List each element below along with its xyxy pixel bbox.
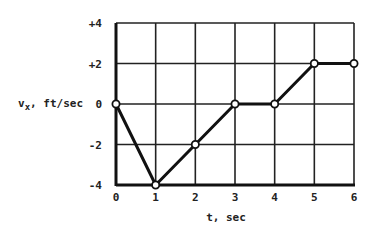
- y-tick-labels: +4+20-2-4: [89, 17, 103, 192]
- x-tick-label: 1: [152, 191, 159, 204]
- x-tick-label: 6: [351, 191, 358, 204]
- data-point-marker: [152, 181, 159, 188]
- x-tick-labels: 0123456: [113, 191, 358, 204]
- x-tick-label: 3: [232, 191, 239, 204]
- y-tick-label: +2: [89, 58, 102, 71]
- data-point-marker: [271, 100, 278, 107]
- y-tick-label: +4: [89, 17, 103, 30]
- x-tick-label: 2: [192, 191, 199, 204]
- y-tick-label: 0: [95, 98, 102, 111]
- x-axis-label: t, sec: [206, 211, 246, 224]
- data-point-marker: [231, 100, 238, 107]
- data-point-marker: [350, 60, 357, 67]
- x-tick-label: 5: [311, 191, 318, 204]
- data-point-marker: [192, 141, 199, 148]
- data-point-marker: [112, 100, 119, 107]
- y-axis-label: vx, ft/sec: [18, 97, 83, 112]
- y-tick-label: -2: [89, 139, 102, 152]
- y-tick-label: -4: [89, 179, 103, 192]
- velocity-time-chart: +4+20-2-4 0123456 t, sec vx, ft/sec: [0, 0, 369, 233]
- data-point-marker: [311, 60, 318, 67]
- x-tick-label: 0: [113, 191, 120, 204]
- x-tick-label: 4: [271, 191, 278, 204]
